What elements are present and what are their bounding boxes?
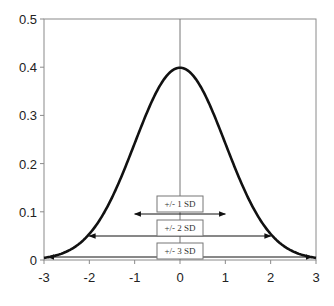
- sd-label-3: +/- 3 SD: [164, 246, 196, 256]
- x-tick-label: 2: [267, 270, 274, 285]
- sd-label-2: +/- 2 SD: [164, 223, 196, 233]
- y-tick-label: 0.4: [19, 60, 37, 75]
- y-tick-label: 0.3: [19, 108, 37, 123]
- y-tick-label: 0.1: [19, 205, 37, 220]
- normal-distribution-chart: 00.10.20.30.40.5 -3-2-10123 +/- 1 SD+/- …: [0, 0, 334, 306]
- y-tick-label: 0: [30, 253, 37, 268]
- sd-annotations: +/- 1 SD+/- 2 SD+/- 3 SD: [48, 196, 312, 259]
- x-tick-label: 3: [312, 270, 319, 285]
- x-tick-label: -2: [84, 270, 96, 285]
- x-tick-label: 1: [222, 270, 229, 285]
- x-tick-label: -1: [129, 270, 141, 285]
- x-axis: -3-2-10123: [38, 260, 319, 285]
- y-axis: 00.10.20.30.40.5: [19, 12, 44, 268]
- x-tick-label: -3: [38, 270, 50, 285]
- sd-label-1: +/- 1 SD: [164, 199, 196, 209]
- y-tick-label: 0.2: [19, 157, 37, 172]
- y-tick-label: 0.5: [19, 12, 37, 27]
- x-tick-label: 0: [176, 270, 183, 285]
- caption-faded: [6, 292, 326, 304]
